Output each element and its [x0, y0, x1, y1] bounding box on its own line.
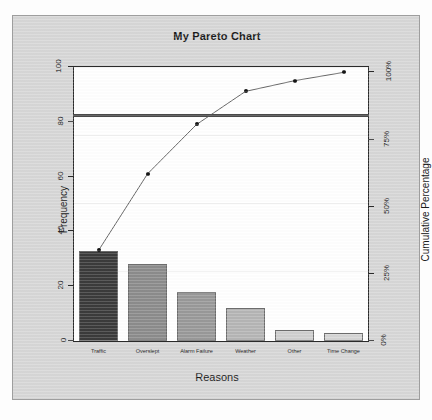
x-axis-category-label: Weather — [235, 348, 256, 354]
y-axis-right-tick-label: 100% — [384, 61, 393, 81]
y-axis-right-tick — [369, 340, 374, 341]
y-axis-right-tick — [369, 273, 374, 274]
y-axis-left-tick-label: 0 — [58, 338, 67, 342]
y-axis-left-tick — [68, 230, 73, 231]
y-axis-right-tick — [369, 71, 374, 72]
y-axis-left-tick — [68, 66, 73, 67]
y-axis-right-tick-label: 25% — [382, 265, 391, 281]
y-axis-left-tick — [68, 121, 73, 122]
y-axis-right-tick-label: 0% — [379, 334, 388, 346]
cumulative-point — [342, 70, 346, 74]
y-axis-right-tick-label: 50% — [382, 198, 391, 214]
y-axis-left-tick-label: 80 — [56, 116, 65, 125]
chart-title: My Pareto Chart — [13, 30, 421, 42]
x-axis-category-label: Alarm Failure — [180, 348, 213, 354]
y-axis-left-title: Frequency — [58, 150, 69, 270]
figure-frame: My Pareto Chart 020406080100 0%25%50%75%… — [12, 15, 420, 400]
x-axis-category-label: Time Change — [327, 348, 360, 354]
y-axis-right-tick — [369, 206, 374, 207]
cumulative-points-layer — [74, 67, 368, 341]
y-axis-right-tick — [369, 139, 374, 140]
y-axis-left-tick-label: 100 — [54, 59, 63, 72]
y-axis-left-tick — [68, 340, 73, 341]
y-axis-left-tick — [68, 176, 73, 177]
chart-page: My Pareto Chart 020406080100 0%25%50%75%… — [0, 0, 432, 420]
y-axis-right-tick-label: 75% — [382, 131, 391, 147]
y-axis-left-tick-label: 20 — [56, 281, 65, 290]
cumulative-point — [97, 248, 101, 252]
cumulative-point — [293, 79, 297, 83]
cumulative-point — [146, 172, 150, 176]
y-axis-right-title: Cumulative Percentage — [420, 150, 431, 270]
x-axis-category-label: Traffic — [91, 348, 106, 354]
x-axis-category-label: Overslept — [136, 348, 160, 354]
plot-panel — [73, 66, 369, 342]
cumulative-point — [195, 122, 199, 126]
x-axis-title: Reasons — [13, 371, 421, 383]
x-axis-category-label: Other — [288, 348, 302, 354]
cumulative-point — [244, 89, 248, 93]
y-axis-left-tick — [68, 285, 73, 286]
